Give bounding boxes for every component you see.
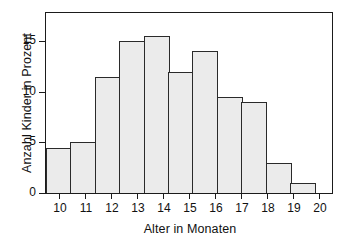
bar-17: [217, 97, 243, 193]
y-tick-5: 5: [39, 142, 46, 143]
x-tick-label-10: 10: [46, 202, 74, 215]
y-tick-0: 0: [39, 193, 46, 194]
x-tick-16: 16: [215, 193, 216, 199]
bar-10: [46, 148, 72, 194]
x-tick-11: 11: [85, 193, 86, 199]
x-tick-19: 19: [293, 193, 294, 199]
x-tick-17: 17: [241, 193, 242, 199]
x-tick-20: 20: [319, 193, 320, 199]
x-tick-12: 12: [111, 193, 112, 199]
x-tick-15: 15: [189, 193, 190, 199]
plot-area: 051015 1011121314151617181920: [45, 12, 333, 194]
y-tick-10: 10: [39, 92, 46, 93]
bar-14: [144, 36, 170, 193]
bar-20: [290, 183, 316, 193]
bar-19: [266, 163, 292, 193]
y-tick-15: 15: [39, 41, 46, 42]
x-tick-label-15: 15: [176, 202, 204, 215]
bar-16: [192, 51, 218, 193]
x-tick-label-17: 17: [228, 202, 256, 215]
y-tick-label-5: 5: [29, 135, 36, 147]
bar-12: [95, 77, 121, 193]
histogram-chart: Anzahl Kinder in Prozent 051015 10111213…: [0, 0, 342, 246]
x-tick-18: 18: [267, 193, 268, 199]
y-tick-label-15: 15: [23, 34, 36, 46]
x-tick-14: 14: [163, 193, 164, 199]
x-tick-10: 10: [59, 193, 60, 199]
x-tick-label-16: 16: [202, 202, 230, 215]
x-tick-label-20: 20: [306, 202, 334, 215]
bar-18: [241, 102, 267, 193]
bar-11: [70, 142, 96, 193]
x-tick-13: 13: [137, 193, 138, 199]
y-tick-label-10: 10: [23, 85, 36, 97]
x-axis-title: Alter in Monaten: [45, 222, 335, 236]
x-tick-label-18: 18: [254, 202, 282, 215]
x-tick-label-13: 13: [124, 202, 152, 215]
x-tick-label-14: 14: [150, 202, 178, 215]
x-tick-label-11: 11: [72, 202, 100, 215]
y-tick-label-0: 0: [29, 186, 36, 198]
bar-series: [46, 11, 332, 193]
x-tick-label-19: 19: [280, 202, 308, 215]
x-tick-label-12: 12: [98, 202, 126, 215]
bar-13: [119, 41, 145, 193]
bar-15: [168, 72, 194, 193]
